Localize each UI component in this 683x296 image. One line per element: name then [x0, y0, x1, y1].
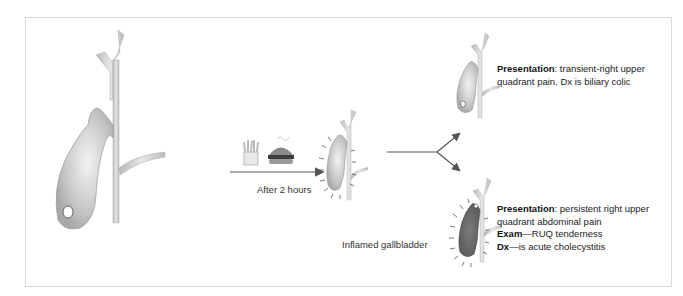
normal-gallbladder-large — [56, 30, 165, 229]
presentation-heading: Presentation — [497, 63, 555, 74]
hamburger-icon — [268, 137, 294, 164]
french-fries-icon — [244, 140, 258, 165]
presentation-heading: Presentation — [497, 203, 555, 214]
branching-arrows — [387, 134, 459, 170]
dx-heading: Dx — [497, 241, 509, 252]
biliary-colic-gallbladder — [457, 33, 500, 118]
exam-heading: Exam — [497, 228, 522, 239]
cholecystitis-description: Presentation: persistent right upper qua… — [497, 203, 667, 253]
dx-text: —is acute cholecystitis — [509, 241, 605, 252]
exam-text: —RUQ tenderness — [522, 228, 602, 239]
inflamed-gallbladder — [449, 178, 502, 267]
inflamed-gallbladder-label: Inflamed gallbladder — [342, 239, 428, 250]
arrow-label: After 2 hours — [257, 184, 311, 195]
biliary-colic-description: Presentation: transient-right upper quad… — [497, 63, 647, 88]
post-meal-gallbladder — [319, 110, 368, 200]
